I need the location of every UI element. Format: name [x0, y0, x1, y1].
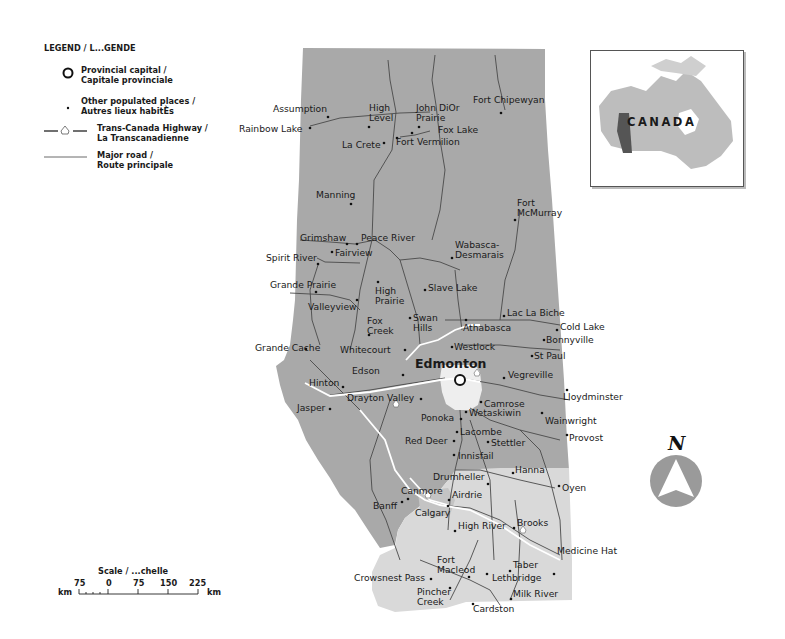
place-label: Drumheller: [433, 472, 485, 482]
place-label: Spirit River: [266, 253, 317, 263]
place-label: Jasper: [297, 403, 325, 413]
legend-capital-line2: Capitale provinciale: [81, 76, 173, 86]
place-label: High River: [458, 521, 506, 531]
inset-canada-label: CANADA: [627, 115, 696, 129]
place-label: Crowsnest Pass: [354, 573, 425, 583]
place-label: John DiOr Prairie: [416, 103, 460, 122]
legend-item-road: Major road / Route principale: [97, 151, 173, 170]
place-label: Grande Cache: [255, 343, 320, 353]
place-label: Wabasca- Desmarais: [455, 240, 504, 259]
place-label: Lacombe: [460, 427, 502, 437]
place-label: Assumption: [273, 104, 327, 114]
scale-title: Scale / ...chelle: [98, 566, 168, 576]
place-label: Medicine Hat: [557, 546, 617, 556]
place-label: Ponoka: [421, 413, 454, 423]
place-label: High Prairie: [375, 286, 404, 305]
place-label: Athabasca: [463, 323, 511, 333]
legend-highway-line2: La Transcanadienne: [97, 134, 208, 144]
place-label: Innisfail: [458, 451, 494, 461]
scale-tick-label: 75: [133, 578, 144, 588]
map-legend: LEGEND / L...GENDE: [44, 44, 136, 62]
place-label: Westlock: [454, 342, 495, 352]
provincial-capital-icon: [455, 375, 465, 385]
compass-north-label: N: [668, 432, 685, 454]
place-label: Airdrie: [452, 490, 482, 500]
legend-item-capital: Provincial capital / Capitale provincial…: [81, 66, 173, 85]
place-label: Banff: [373, 501, 397, 511]
place-label: La Crete: [342, 140, 381, 150]
place-label: Wainwright: [545, 416, 597, 426]
place-label: Bonnyville: [546, 335, 594, 345]
place-label: Fairview: [335, 248, 373, 258]
place-label: Cold Lake: [560, 322, 605, 332]
scale-tick-label: 150: [160, 578, 177, 588]
place-label: Valleyview: [308, 302, 357, 312]
north-arrow-icon: [650, 455, 702, 507]
legend-title: LEGEND / L...GENDE: [44, 44, 136, 54]
legend-item-highway: Trans-Canada Highway / La Transcanadienn…: [97, 124, 208, 143]
place-label: Vegreville: [508, 370, 553, 380]
place-label: Taber: [513, 560, 538, 570]
place-label: Calgary: [415, 508, 450, 518]
place-label: Wetaskiwin: [469, 408, 521, 418]
legend-capital-icon: [64, 69, 73, 78]
scale-tick-label: 75: [74, 578, 85, 588]
capital-label-edmonton: Edmonton: [415, 359, 486, 369]
place-label: Rainbow Lake: [239, 124, 302, 134]
place-label: Fox Lake: [438, 125, 478, 135]
place-label: Red Deer: [405, 436, 448, 446]
place-label: Whitecourt: [340, 345, 391, 355]
scale-bar: [79, 589, 198, 594]
scale-unit-right: km: [207, 587, 221, 597]
place-label: Hinton: [309, 378, 339, 388]
place-label: Swan Hills: [413, 313, 438, 332]
place-label: Stettler: [491, 438, 525, 448]
place-label: Cardston: [473, 604, 514, 614]
place-label: St Paul: [534, 351, 566, 361]
scale-unit-left: km: [58, 587, 72, 597]
place-label: Provost: [569, 433, 603, 443]
place-label: Edson: [352, 366, 380, 376]
legend-maple-leaf-icon: [61, 126, 69, 134]
scale-tick-label: 0: [106, 578, 112, 588]
place-label: Lethbridge: [492, 573, 542, 583]
place-label: Grimshaw: [300, 233, 346, 243]
place-label: Fort Macleod: [437, 555, 475, 574]
legend-road-line2: Route principale: [97, 161, 173, 171]
legend-item-places: Other populated places / Autres lieux ha…: [81, 97, 195, 116]
place-label: Lac La Biche: [507, 308, 565, 318]
place-label: Drayton Valley: [347, 393, 414, 403]
place-label: Hanna: [515, 465, 545, 475]
place-label: Peace River: [361, 233, 415, 243]
place-label: Manning: [316, 190, 355, 200]
legend-dot-icon: [67, 107, 69, 109]
place-label: Milk River: [513, 589, 558, 599]
place-label: Fox Creek: [367, 316, 394, 335]
place-label: Oyen: [562, 483, 586, 493]
place-label: Fort Chipewyan: [473, 95, 545, 105]
place-label: Brooks: [517, 518, 548, 528]
place-label: Slave Lake: [428, 283, 477, 293]
legend-places-line2: Autres lieux habitÈs: [81, 107, 195, 117]
place-label: Lloydminster: [563, 392, 623, 402]
scale-tick-label: 225: [189, 578, 206, 588]
place-label: Fort McMurray: [517, 198, 562, 217]
place-label: Grande Prairie: [270, 280, 336, 290]
place-label: Fort Vermilion: [396, 137, 460, 147]
place-label: High Level: [369, 103, 393, 122]
place-label: Pincher Creek: [417, 587, 451, 606]
place-label: Canmore: [401, 486, 443, 496]
